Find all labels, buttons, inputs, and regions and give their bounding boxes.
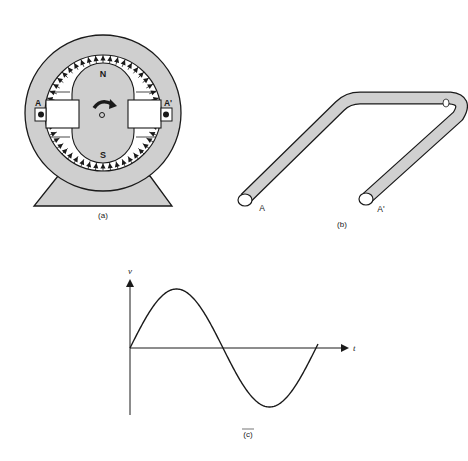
conductor-dot-right xyxy=(163,112,169,118)
wire-end-a-prime xyxy=(359,193,373,205)
wire-end-a xyxy=(238,194,252,206)
wire-end-a-prime-label: A' xyxy=(377,204,385,214)
slot-right xyxy=(128,100,161,128)
terminal-a-prime-label: A' xyxy=(164,98,172,108)
wire-bend-hole xyxy=(443,99,449,107)
caption-c: (c) xyxy=(243,430,253,439)
sine-wave-chart: v t (c) xyxy=(128,266,356,439)
pole-south-label: S xyxy=(100,150,106,160)
slot-left xyxy=(46,100,79,128)
y-axis-label: v xyxy=(128,266,132,276)
figure: N S A A' (a) A A' (b) v t (c) xyxy=(0,0,468,461)
wire-loop xyxy=(245,98,462,199)
x-axis-label: t xyxy=(353,343,356,353)
caption-b: (b) xyxy=(337,220,347,229)
generator-diagram: N S A A' (a) xyxy=(25,35,181,220)
conductor-dot-left xyxy=(38,112,44,118)
wire-end-a-label: A xyxy=(259,203,265,213)
caption-a: (a) xyxy=(98,211,108,220)
terminal-a-label: A xyxy=(35,98,41,108)
wire-loop-diagram: A A' (b) xyxy=(238,98,462,229)
pole-north-label: N xyxy=(100,69,107,79)
